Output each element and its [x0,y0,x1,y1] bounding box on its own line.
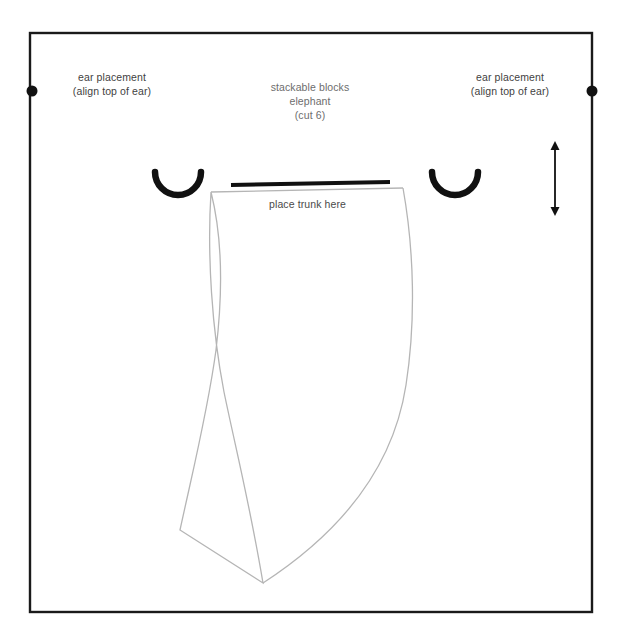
pattern-sheet: ear placement (align top of ear) ear pla… [0,0,621,641]
trunk-placement-label: place trunk here [215,197,400,211]
ear-arc-left [155,172,201,195]
ear-arc-right [432,172,478,195]
elephant-body-panel-right-edge [263,188,412,583]
trunk-placement-edge [231,182,390,185]
height-dimension-arrow [551,141,560,216]
ear-placement-label-right: ear placement (align top of ear) [420,70,600,98]
ear-placement-label-left: ear placement (align top of ear) [22,70,202,98]
elephant-body-panel-outline [180,192,263,583]
pattern-title-block: stackable blocks elephant (cut 6) [210,80,410,122]
elephant-body-panel-top-edge [211,188,403,192]
